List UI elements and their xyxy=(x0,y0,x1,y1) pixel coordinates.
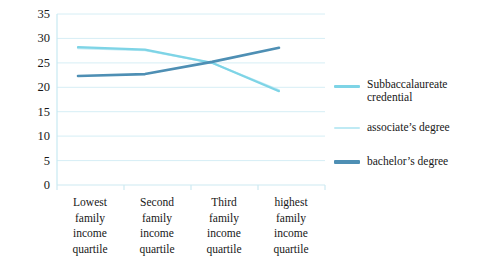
x-category-3-line-2: family xyxy=(258,211,324,227)
y-tick-5: 5 xyxy=(24,155,50,167)
y-tick-25: 25 xyxy=(24,57,50,69)
x-category-2-line-4: quartile xyxy=(191,242,257,258)
x-category-1-line-3: income xyxy=(124,226,190,242)
y-tick-30: 30 xyxy=(24,32,50,44)
gridlines xyxy=(57,14,325,161)
x-category-3-line-4: quartile xyxy=(258,242,324,258)
x-category-3-line-3: income xyxy=(258,226,324,242)
legend-label-associate: associate’s degree xyxy=(367,121,450,134)
y-tick-35: 35 xyxy=(24,8,50,20)
y-tick-20: 20 xyxy=(24,81,50,93)
x-category-2-line-3: income xyxy=(191,226,257,242)
x-category-0-line-3: income xyxy=(57,226,123,242)
series-line-bachelor xyxy=(78,48,279,76)
x-category-1-line-4: quartile xyxy=(124,242,190,258)
legend-swatch-associate-icon xyxy=(334,127,360,129)
x-category-1: Second family income quartile xyxy=(124,195,190,257)
x-category-0-line-4: quartile xyxy=(57,242,123,258)
legend-label-subbaccalaureate: Subbaccalaureate credential xyxy=(367,78,475,104)
chart-legend: Subbaccalaureate credential associate’s … xyxy=(334,78,477,185)
legend-item-bachelor[interactable]: bachelor’s degree xyxy=(334,155,477,168)
legend-label-bachelor: bachelor’s degree xyxy=(367,155,448,168)
y-tick-10: 10 xyxy=(24,130,50,142)
x-category-3: highest family income quartile xyxy=(258,195,324,257)
legend-label-subbaccalaureate-line-1: Subbaccalaureate xyxy=(367,78,447,90)
y-tick-0: 0 xyxy=(24,179,50,191)
x-category-0: Lowest family income quartile xyxy=(57,195,123,257)
line-chart: 35 30 25 20 15 10 5 0 Lowest family inco… xyxy=(0,0,477,275)
x-category-2-line-2: family xyxy=(191,211,257,227)
series-lines xyxy=(78,47,279,91)
legend-swatch-bachelor-icon xyxy=(334,160,360,164)
y-tick-15: 15 xyxy=(24,106,50,118)
x-category-0-line-2: family xyxy=(57,211,123,227)
x-category-2-line-1: Third xyxy=(191,195,257,211)
x-tick-marks xyxy=(57,185,325,190)
legend-label-subbaccalaureate-line-2: credential xyxy=(367,91,412,103)
x-category-0-line-1: Lowest xyxy=(57,195,123,211)
x-category-1-line-2: family xyxy=(124,211,190,227)
x-category-3-line-1: highest xyxy=(258,195,324,211)
x-category-1-line-1: Second xyxy=(124,195,190,211)
legend-item-subbaccalaureate[interactable]: Subbaccalaureate credential xyxy=(334,78,477,104)
x-category-2: Third family income quartile xyxy=(191,195,257,257)
legend-swatch-subbaccalaureate-icon xyxy=(334,85,360,88)
axis-lines xyxy=(57,14,325,185)
legend-item-associate[interactable]: associate’s degree xyxy=(334,121,477,134)
